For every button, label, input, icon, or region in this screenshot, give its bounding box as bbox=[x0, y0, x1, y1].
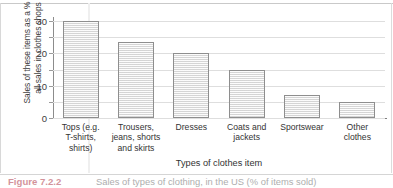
gridline bbox=[53, 118, 385, 119]
x-axis-title: Types of clothes item bbox=[53, 158, 385, 168]
y-axis-tick-label: 20 bbox=[36, 48, 47, 59]
figure-right-border bbox=[391, 3, 392, 173]
gridline bbox=[53, 86, 385, 87]
y-axis-tick-label: 0 bbox=[42, 113, 47, 124]
figure-container: Sales of these items as a % of all sales… bbox=[0, 0, 393, 188]
x-axis-tick-label: Dresses bbox=[160, 122, 223, 132]
figure-caption-text: Sales of types of clothing, in the US (%… bbox=[96, 176, 316, 187]
figure-number-label: Figure 7.2.2 bbox=[8, 176, 61, 187]
bar bbox=[284, 95, 320, 118]
bar bbox=[63, 21, 99, 118]
y-axis-tick bbox=[49, 118, 53, 119]
gridline bbox=[53, 53, 385, 54]
y-axis-tick bbox=[49, 86, 53, 87]
gridline bbox=[53, 37, 385, 38]
gridline bbox=[53, 21, 385, 22]
x-axis-tick-label: Coats and jackets bbox=[215, 122, 278, 143]
bar bbox=[118, 42, 154, 118]
gridline bbox=[53, 102, 385, 103]
figure-left-border bbox=[0, 3, 1, 173]
y-axis-tick bbox=[49, 53, 53, 54]
gridline bbox=[53, 70, 385, 71]
x-axis-tick-label: Trousers, jeans, shorts and skirts bbox=[104, 122, 167, 153]
bar bbox=[229, 70, 265, 118]
y-axis-tick bbox=[49, 102, 53, 103]
y-axis-tick bbox=[49, 37, 53, 38]
y-axis-tick-label: 10 bbox=[36, 80, 47, 91]
x-axis-tick-label: Other clothes bbox=[326, 122, 389, 143]
y-axis-title-line-1: Sales of these items as a % of bbox=[22, 0, 33, 128]
y-axis-tick-label: 30 bbox=[36, 16, 47, 27]
bar bbox=[339, 102, 375, 118]
figure-caption-strip: Figure 7.2.2 Sales of types of clothing,… bbox=[0, 174, 393, 188]
y-axis-tick bbox=[49, 21, 53, 22]
bar bbox=[173, 53, 209, 118]
plot-area: 0102030 bbox=[53, 18, 385, 118]
x-axis-tick-label: Tops (e.g. T-shirts, shirts) bbox=[49, 122, 112, 153]
x-axis-tick-label: Sportswear bbox=[270, 122, 333, 132]
y-axis-tick bbox=[49, 70, 53, 71]
